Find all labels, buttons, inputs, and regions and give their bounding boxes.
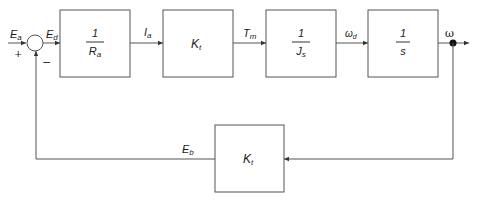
- summing-junction: [27, 35, 43, 51]
- back-emf-block: Kt: [215, 125, 284, 192]
- svg-text:1: 1: [92, 27, 98, 39]
- torque-constant-block: Kt: [163, 10, 233, 77]
- current-label: Ia: [144, 26, 152, 40]
- svg-text:1: 1: [400, 27, 406, 39]
- minus-sign: −: [42, 56, 51, 69]
- back-emf-label: Eb: [182, 143, 194, 157]
- armature-block: 1 Ra: [60, 10, 130, 77]
- torque-label: Tm: [243, 27, 257, 41]
- error-label: Ed: [46, 28, 58, 42]
- input-label: Ea: [10, 28, 22, 42]
- svg-text:1: 1: [298, 27, 304, 39]
- output-label: ω: [445, 27, 454, 40]
- block-diagram: Ea + − Ed 1 Ra Ia Kt Tm 1 Js ωd 1 s ω: [0, 0, 482, 205]
- integrator-block: 1 s: [368, 10, 438, 77]
- plus-sign: +: [14, 48, 22, 59]
- inertia-block: 1 Js: [266, 10, 336, 77]
- svg-text:s: s: [400, 45, 406, 57]
- speed-d-label: ωd: [345, 28, 358, 40]
